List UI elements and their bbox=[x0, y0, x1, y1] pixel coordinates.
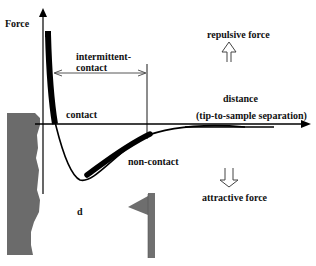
non-contact-region-thick-curve bbox=[87, 134, 150, 175]
attractive-arrow-icon bbox=[220, 168, 238, 187]
afm-cantilever bbox=[148, 193, 155, 258]
contact-region-thick-curve bbox=[48, 34, 55, 124]
x-axis-label: distance bbox=[223, 93, 259, 104]
repulsive-force-label: repulsive force bbox=[207, 29, 270, 40]
contact-label: contact bbox=[66, 109, 98, 120]
non-contact-label: non-contact bbox=[128, 156, 179, 167]
x-axis-arrow-icon bbox=[301, 120, 311, 128]
force-distance-diagram: Force intermittent- contact contact non-… bbox=[0, 0, 316, 266]
afm-tip bbox=[128, 196, 148, 215]
repulsive-arrow-icon bbox=[222, 42, 236, 62]
intermittent-contact-label-line1: intermittent- bbox=[76, 51, 131, 62]
x-axis-sublabel: (tip-to-sample separation) bbox=[196, 110, 307, 122]
y-axis-arrow-icon bbox=[39, 8, 47, 17]
distance-symbol-d: d bbox=[77, 206, 83, 217]
y-axis-label: Force bbox=[5, 18, 30, 29]
intermittent-contact-label-line2: contact bbox=[76, 62, 108, 73]
sample-surface bbox=[7, 113, 40, 255]
contact-curve-cap bbox=[45, 31, 51, 37]
attractive-force-label: attractive force bbox=[202, 192, 268, 203]
